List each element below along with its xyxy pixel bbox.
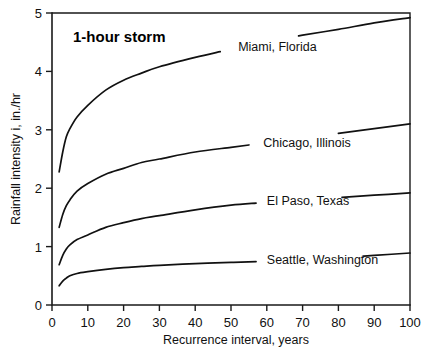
chart-background — [0, 0, 444, 355]
series-label-3: El Paso, Texas — [267, 194, 349, 208]
x-tick-label: 60 — [260, 315, 274, 330]
plot-title: 1-hour storm — [73, 28, 166, 45]
x-tick-label: 90 — [367, 315, 381, 330]
x-tick-label: 10 — [81, 315, 95, 330]
y-tick-label: 4 — [35, 64, 42, 79]
rainfall-intensity-chart: 0102030405060708090100 012345 Miami, Flo… — [0, 0, 444, 355]
x-tick-label: 50 — [224, 315, 238, 330]
y-tick-label: 2 — [35, 181, 42, 196]
x-tick-label: 0 — [48, 315, 55, 330]
y-tick-label: 1 — [35, 240, 42, 255]
x-tick-label: 20 — [116, 315, 130, 330]
chart-container: 0102030405060708090100 012345 Miami, Flo… — [0, 0, 444, 355]
series-label-1: Miami, Florida — [238, 40, 317, 54]
y-axis-title: Rainfall intensity i, in./hr — [9, 93, 23, 225]
x-tick-label: 30 — [152, 315, 166, 330]
y-tick-label: 5 — [35, 6, 42, 21]
series-label-4: Seattle, Washington — [267, 253, 378, 267]
x-tick-label: 40 — [188, 315, 202, 330]
x-tick-label: 100 — [399, 315, 421, 330]
x-tick-label: 80 — [331, 315, 345, 330]
series-label-2: Chicago, Illinois — [263, 136, 351, 150]
y-tick-label: 0 — [35, 298, 42, 313]
x-axis-title: Recurrence interval, years — [163, 333, 309, 347]
y-tick-label: 3 — [35, 123, 42, 138]
x-tick-label: 70 — [295, 315, 309, 330]
